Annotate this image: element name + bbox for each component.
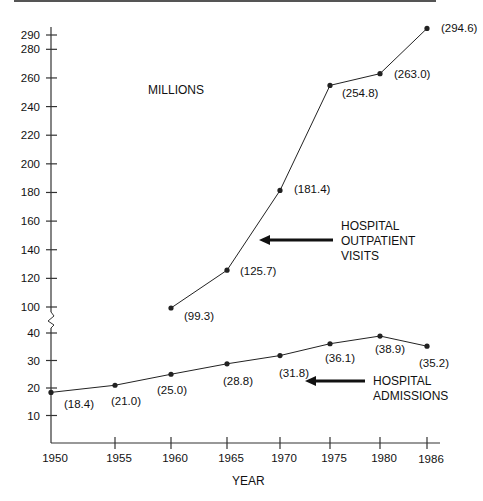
legend-label-line: OUTPATIENT [341,234,416,248]
data-value-label: (294.6) [441,22,478,34]
y-tick-label: 140 [21,244,40,256]
y-tick-label: 40 [27,327,40,339]
line-chart: 1020304010012014016018020022024026028029… [0,0,483,501]
data-point [168,305,173,310]
data-point [224,268,229,273]
y-tick-label: 10 [27,410,40,422]
x-tick-label: 1950 [42,452,68,464]
data-point [377,333,382,338]
arrowhead-icon [259,235,270,245]
legend-label-line: HOSPITAL [341,219,400,233]
data-value-label: (181.4) [294,183,331,195]
x-tick-label: 1960 [162,452,188,464]
data-point [377,71,382,76]
data-point [277,188,282,193]
data-value-label: (35.2) [419,357,449,369]
data-value-label: (18.4) [64,398,94,410]
data-value-label: (263.0) [394,68,431,80]
data-value-label: (25.0) [157,384,187,396]
data-value-label: (28.8) [223,375,253,387]
x-tick-label: 1975 [321,452,347,464]
y-tick-label: 20 [27,382,40,394]
x-tick-label: 1955 [106,452,132,464]
y-tick-label: 30 [27,355,40,367]
data-value-label: (36.1) [325,352,355,364]
units-label: MILLIONS [148,83,204,97]
series-group: (99.3)(125.7)(181.4)(254.8)(263.0)(294.6… [48,22,477,410]
x-tick-label: 1965 [218,452,244,464]
x-tick-label: 1970 [271,452,297,464]
y-tick-label: 120 [21,272,40,284]
axis-break-icon [48,312,54,328]
legend-label-line: HOSPITAL [373,374,432,388]
legend-label-line: VISITS [341,249,379,263]
y-tick-label: 220 [21,129,40,141]
y-tick-label: 180 [21,186,40,198]
y-tick-label: 280 [21,43,40,55]
series-line [171,28,427,308]
y-tick-label: 240 [21,101,40,113]
data-value-label: (21.0) [111,395,141,407]
y-tick-label: 100 [21,301,40,313]
data-point [112,383,117,388]
data-value-label: (254.8) [342,87,379,99]
data-point [224,361,229,366]
y-tick-label: 200 [21,158,40,170]
data-value-label: (38.9) [375,343,405,355]
data-point [48,390,53,395]
data-value-label: (31.8) [279,367,309,379]
data-point [424,26,429,31]
legend-outpatient-visits: HOSPITALOUTPATIENTVISITS [341,219,416,263]
x-tick-label: 1986 [418,453,444,465]
x-axis-title: YEAR [232,474,265,488]
data-point [327,83,332,88]
x-tick-label: 1980 [371,452,397,464]
data-value-label: (99.3) [184,310,214,322]
data-point [277,353,282,358]
data-point [168,372,173,377]
series-outpatient-visits: (99.3)(125.7)(181.4)(254.8)(263.0)(294.6… [168,22,477,322]
legend-label-line: ADMISSIONS [373,389,448,403]
data-point [327,341,332,346]
y-tick-label: 290 [21,29,40,41]
legend-hospital-admissions: HOSPITALADMISSIONS [373,374,448,403]
y-tick-label: 260 [21,72,40,84]
data-value-label: (125.7) [240,265,277,277]
y-tick-label: 160 [21,215,40,227]
data-point [424,344,429,349]
